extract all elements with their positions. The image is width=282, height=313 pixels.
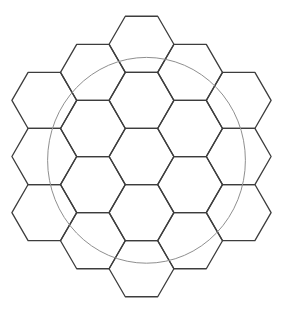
hexagon	[12, 72, 77, 128]
overlay-circle	[48, 57, 246, 263]
hexagon-grid-figure	[0, 0, 282, 313]
hexagon	[109, 185, 174, 241]
hexagon	[61, 157, 126, 213]
hexagon	[109, 128, 174, 184]
hexagon	[61, 100, 126, 156]
hexagon	[109, 72, 174, 128]
hexagon	[12, 185, 77, 241]
hexagon-grid-svg	[0, 0, 282, 313]
hexagon	[61, 44, 126, 100]
hexagon	[206, 185, 271, 241]
hexagon	[158, 157, 223, 213]
hexagon	[158, 100, 223, 156]
hexagon	[206, 128, 271, 184]
hexagon	[158, 213, 223, 269]
hexagon	[206, 72, 271, 128]
hexagon	[12, 128, 77, 184]
hexagon	[109, 16, 174, 72]
hexagon	[61, 213, 126, 269]
hexagon	[158, 44, 223, 100]
hexagon	[109, 241, 174, 297]
hexagon-grid-layer	[12, 16, 271, 297]
